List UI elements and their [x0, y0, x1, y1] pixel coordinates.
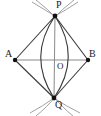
point-label-q: Q: [55, 100, 62, 110]
point-label-b: B: [89, 49, 96, 59]
geometry-figure: P A B O Q: [0, 0, 101, 116]
point-label-p: P: [56, 0, 62, 10]
segment-qa: [15, 60, 54, 98]
point-p: [53, 14, 58, 19]
lens-arc-left: [41, 16, 55, 98]
geometry-canvas: [0, 0, 101, 116]
segment-pq: [54, 16, 55, 98]
construction-arc-top-left: [32, 2, 55, 16]
point-label-o: O: [57, 61, 64, 71]
lens-arc-right: [54, 16, 68, 98]
segment-ap: [15, 16, 55, 60]
point-a: [13, 58, 17, 62]
point-label-a: A: [5, 49, 12, 59]
segment-pb: [55, 16, 88, 60]
